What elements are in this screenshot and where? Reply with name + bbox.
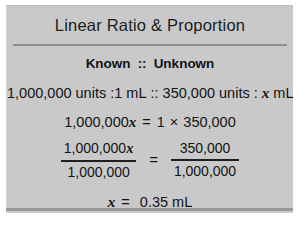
left-coefficient: 1,000,000 <box>64 114 129 130</box>
right-fraction-bar <box>171 159 239 161</box>
left-fraction-denominator: 1,000,000 <box>64 164 132 182</box>
right-factor-one: 1 <box>157 114 165 130</box>
division-step-equation: 1,000,000x 1,000,000 = 350,000 1,000,000 <box>7 139 293 181</box>
proportion-separator: :: <box>151 85 159 101</box>
multiplication-sign: × <box>165 114 183 130</box>
right-fraction-denominator: 1,000,000 <box>171 163 239 181</box>
unknown-ratio-separator: : <box>254 85 258 101</box>
header-separator: :: <box>131 56 154 71</box>
cross-multiply-equation: 1,000,000x=1×350,000 <box>7 114 293 131</box>
left-numerator-variable: x <box>126 140 133 156</box>
right-fraction: 350,000 1,000,000 <box>171 140 239 181</box>
left-numerator-value: 1,000,000 <box>64 140 126 156</box>
unknown-label: Unknown <box>154 56 215 71</box>
title-divider <box>13 44 287 46</box>
division-equals-sign: = <box>136 152 170 168</box>
right-factor-two: 350,000 <box>183 114 235 130</box>
known-unknown-header: Known::Unknown <box>7 56 293 71</box>
known-quantity: 1,000,000 units <box>7 85 106 101</box>
proportion-statement: 1,000,000 units :1 mL :: 350,000 units :… <box>7 85 293 102</box>
unknown-variable: x <box>262 85 270 101</box>
unknown-quantity: 350,000 units <box>163 85 250 101</box>
right-fraction-numerator: 350,000 <box>177 140 234 158</box>
unknown-volume-unit: mL <box>273 85 293 101</box>
left-variable: x <box>129 114 137 130</box>
card-content: Linear Ratio & Proportion Known::Unknown… <box>7 6 293 213</box>
left-fraction: 1,000,000x 1,000,000 <box>61 139 137 181</box>
page-title: Linear Ratio & Proportion <box>7 16 293 35</box>
left-fraction-numerator: 1,000,000x <box>61 139 137 158</box>
left-fraction-bar <box>61 160 137 162</box>
bottom-divider <box>6 208 293 211</box>
linear-ratio-proportion-card: Linear Ratio & Proportion Known::Unknown… <box>6 5 293 213</box>
equals-sign: = <box>136 114 156 130</box>
known-volume: 1 mL <box>114 85 146 101</box>
known-label: Known <box>86 56 131 71</box>
